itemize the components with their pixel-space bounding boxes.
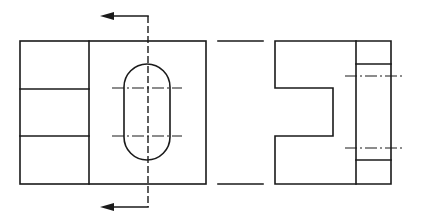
front-view [20, 41, 206, 184]
front-view-outline [20, 41, 206, 184]
technical-drawing [0, 0, 426, 222]
section-arrow-bottom-icon [100, 203, 114, 211]
projection-lines [218, 41, 263, 184]
slot-outline [124, 64, 170, 160]
side-view-outline [275, 41, 391, 184]
section-arrow-top-icon [100, 12, 114, 20]
side-view [275, 41, 403, 184]
